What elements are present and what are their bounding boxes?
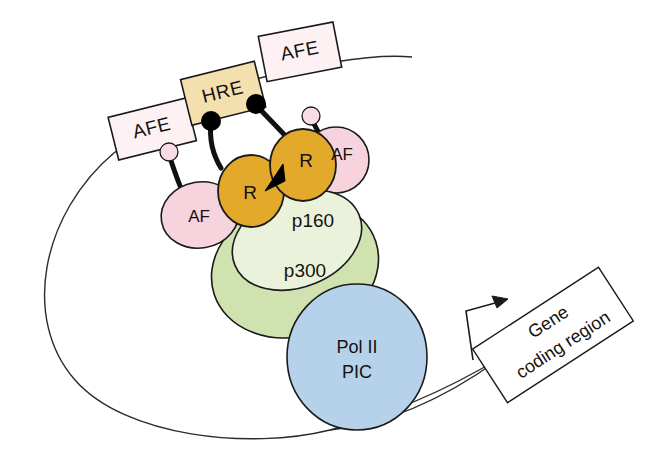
receptor-left-label: R: [243, 182, 257, 203]
receptor-right-label: R: [299, 150, 313, 171]
figure-canvas: AFE HRE AFE R R AF AF p160 p300 Pol II P…: [0, 0, 653, 462]
afe-right-label: AFE: [279, 37, 321, 65]
afe-left-label: AFE: [130, 113, 173, 143]
af-right-label: AF: [331, 145, 353, 164]
label-svg: AFE HRE AFE R R AF AF p160 p300 Pol II P…: [0, 0, 653, 462]
p300-label: p300: [284, 260, 326, 281]
pol2-pic-label-line2: PIC: [342, 362, 372, 382]
af-left-label: AF: [188, 207, 210, 226]
pol2-pic-label-line1: Pol II: [336, 337, 377, 357]
gene-coding-region-label-group: Gene coding region: [497, 284, 613, 382]
hre-label: HRE: [200, 76, 246, 107]
p160-label: p160: [292, 210, 334, 231]
